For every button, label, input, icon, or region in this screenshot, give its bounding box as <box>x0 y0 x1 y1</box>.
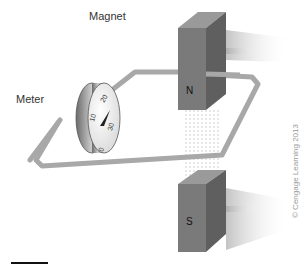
north-magnet-shadow <box>226 30 290 62</box>
magnet-label: Magnet <box>89 10 126 22</box>
south-magnet-shadow <box>226 188 290 250</box>
wire-front-segment <box>206 74 240 75</box>
south-pole-label: S <box>186 216 193 227</box>
south-magnet <box>178 170 226 252</box>
copyright-notice: © Cengage Learning 2013 <box>291 124 300 218</box>
scale-bar <box>11 262 48 264</box>
induction-diagram: N S 0 10 20 30 <box>0 0 304 270</box>
meter <box>76 83 120 153</box>
meter-label: Meter <box>16 93 44 105</box>
north-pole-label: N <box>186 85 193 96</box>
